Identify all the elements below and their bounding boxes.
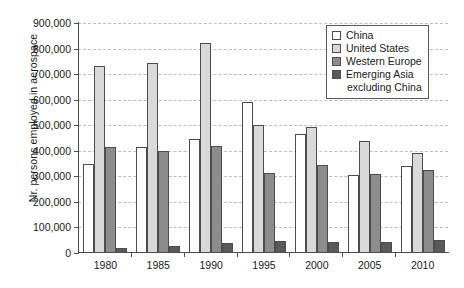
x-tick-label: 2000 <box>305 259 328 271</box>
legend-swatch-icon <box>332 44 341 53</box>
bar <box>169 246 180 253</box>
x-tick-mark <box>184 253 185 257</box>
y-tick-label: 100,000 <box>33 221 71 233</box>
legend-swatch-icon <box>332 31 341 40</box>
y-tick-label: 400,000 <box>33 145 71 157</box>
chart-figure: Nr. persons employed in aerospace 0100,0… <box>0 0 464 288</box>
x-tick-mark <box>395 253 396 257</box>
legend-swatch-icon <box>332 57 341 66</box>
bar <box>412 153 423 253</box>
y-tick-label: 900,000 <box>33 17 71 29</box>
bar-group <box>242 23 286 253</box>
legend-item: United States <box>332 42 422 55</box>
bar <box>317 165 328 253</box>
bar-group <box>136 23 180 253</box>
bar <box>401 166 412 253</box>
legend-label: United States <box>346 42 409 55</box>
bar <box>211 146 222 253</box>
y-tick-mark <box>74 253 79 254</box>
y-tick-label: 800,000 <box>33 43 71 55</box>
bar <box>264 173 275 254</box>
bar <box>136 147 147 253</box>
legend-label: Emerging Asia <box>346 68 414 81</box>
bar <box>147 63 158 253</box>
legend-swatch-icon <box>332 70 341 79</box>
x-tick-label: 1995 <box>252 259 275 271</box>
bar <box>434 240 445 253</box>
x-tick-label: 1990 <box>199 259 222 271</box>
bar <box>348 175 359 253</box>
bar <box>222 243 233 253</box>
y-tick-label: 500,000 <box>33 119 71 131</box>
y-tick-label: 600,000 <box>33 94 71 106</box>
bar <box>83 164 94 253</box>
bar-group <box>189 23 233 253</box>
bar <box>306 127 317 254</box>
legend-item: Western Europe <box>332 55 422 68</box>
x-tick-mark <box>289 253 290 257</box>
bar <box>253 125 264 253</box>
bar <box>275 241 286 253</box>
y-tick-label: 0 <box>65 247 71 259</box>
bar <box>295 134 306 253</box>
legend-item: China <box>332 29 422 42</box>
x-tick-label: 2010 <box>411 259 434 271</box>
bar <box>370 174 381 253</box>
chart-legend: ChinaUnited StatesWestern EuropeEmerging… <box>326 25 429 99</box>
bar <box>423 170 434 253</box>
bar <box>116 248 127 253</box>
bar <box>359 141 370 253</box>
y-tick-label: 300,000 <box>33 170 71 182</box>
bar <box>158 151 169 253</box>
bar <box>189 139 200 253</box>
bar-group <box>83 23 127 253</box>
x-tick-label: 2005 <box>358 259 381 271</box>
y-tick-label: 200,000 <box>33 196 71 208</box>
x-tick-mark <box>131 253 132 257</box>
x-tick-label: 1980 <box>94 259 117 271</box>
x-tick-label: 1985 <box>147 259 170 271</box>
bar <box>242 102 253 253</box>
bar <box>94 66 105 253</box>
bar <box>381 242 392 254</box>
y-tick-label: 700,000 <box>33 68 71 80</box>
legend-label: China <box>346 29 373 42</box>
legend-label-continuation: excluding China <box>332 81 422 94</box>
legend-item: Emerging Asia <box>332 68 422 81</box>
bar <box>105 147 116 253</box>
bar <box>200 43 211 253</box>
bar <box>328 242 339 253</box>
x-tick-mark <box>237 253 238 257</box>
legend-label: Western Europe <box>346 55 422 68</box>
x-tick-mark <box>342 253 343 257</box>
